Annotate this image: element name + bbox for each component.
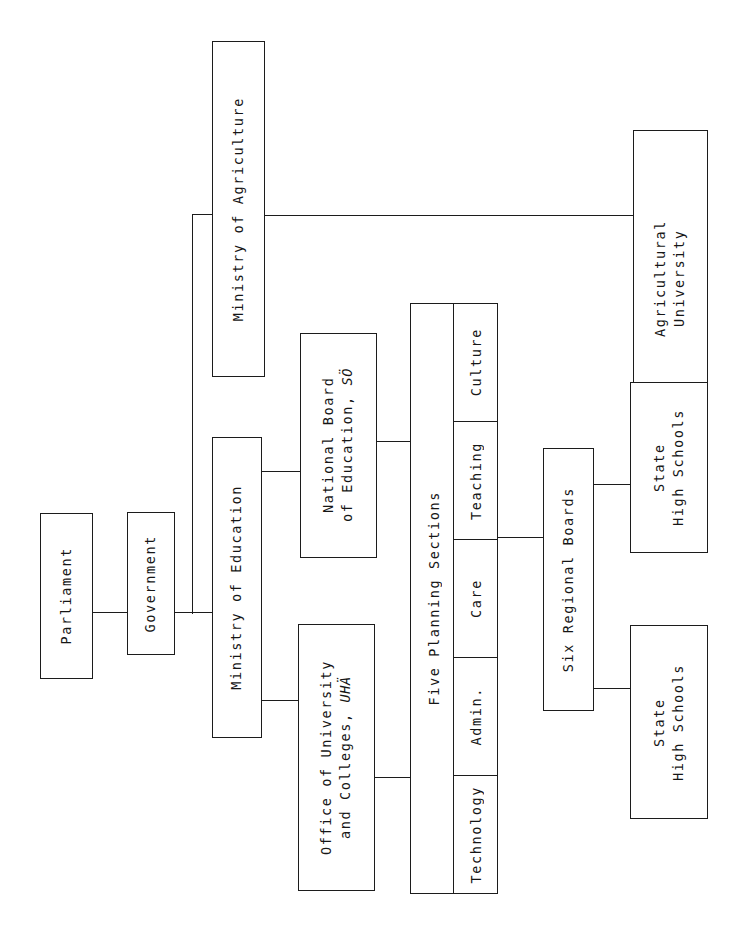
edge-education-national-board — [261, 471, 301, 472]
node-government-label: Government — [141, 535, 160, 632]
national-board-line1: National Board — [320, 377, 336, 513]
planning-section-care-label: Care — [468, 579, 484, 618]
planning-section-culture[interactable]: Culture — [454, 304, 497, 422]
edge-trunk-ministry-agriculture — [192, 214, 214, 215]
state-high-schools-upper-line1: State — [651, 443, 667, 492]
node-office-of-university-and-colleges[interactable]: Office of University and Colleges, UHÄ — [298, 624, 375, 891]
node-state-high-schools-lower-label: State High Schools — [650, 664, 688, 781]
state-high-schools-lower-line1: State — [651, 698, 667, 747]
office-university-line1: Office of University — [318, 660, 334, 855]
planning-section-culture-label: Culture — [468, 328, 484, 396]
node-ministry-of-education[interactable]: Ministry of Education — [212, 437, 262, 738]
office-university-line2: and Colleges, — [338, 702, 354, 838]
state-high-schools-upper-line2: High Schools — [670, 409, 686, 526]
node-six-regional-boards-label: Six Regional Boards — [559, 487, 578, 672]
node-agricultural-university-label: Agricultural University — [651, 220, 689, 337]
edge-agriculture-university — [264, 215, 634, 216]
node-office-of-university-and-colleges-label: Office of University and Colleges, UHÄ — [317, 660, 355, 855]
node-parliament-label: Parliament — [57, 547, 76, 644]
node-national-board-of-education-label: National Board of Education, SÖ — [319, 368, 357, 522]
node-state-high-schools-upper[interactable]: State High Schools — [630, 382, 708, 553]
planning-section-cells: Culture Teaching Care Admin. Technology — [453, 304, 497, 893]
planning-section-technology-label: Technology — [468, 786, 484, 883]
node-national-board-of-education[interactable]: National Board of Education, SÖ — [300, 333, 377, 558]
edge-government-trunk — [175, 612, 212, 613]
state-high-schools-lower-line2: High Schools — [670, 664, 686, 781]
org-chart-canvas: Parliament Government Ministry of Educat… — [0, 0, 756, 952]
planning-section-teaching-label: Teaching — [468, 442, 484, 520]
planning-section-admin-label: Admin. — [468, 687, 484, 746]
edge-national-board-planning — [376, 441, 411, 442]
agricultural-university-line1: Agricultural — [652, 220, 668, 337]
five-planning-sections-label: Five Planning Sections — [426, 491, 442, 705]
node-ministry-of-agriculture-label: Ministry of Agriculture — [229, 97, 248, 321]
planning-section-teaching[interactable]: Teaching — [454, 422, 497, 540]
edge-parliament-government — [93, 612, 127, 613]
national-board-abbr: SÖ — [340, 368, 356, 386]
planning-section-technology[interactable]: Technology — [454, 776, 497, 893]
edge-planning-regional-boards — [497, 537, 544, 538]
planning-section-admin[interactable]: Admin. — [454, 658, 497, 776]
edge-office-university-planning — [374, 777, 411, 778]
five-planning-sections-title: Five Planning Sections — [411, 304, 456, 893]
node-five-planning-sections[interactable]: Five Planning Sections Culture Teaching … — [410, 303, 498, 894]
node-parliament[interactable]: Parliament — [40, 513, 93, 679]
node-six-regional-boards[interactable]: Six Regional Boards — [543, 448, 594, 711]
planning-section-care[interactable]: Care — [454, 540, 497, 658]
edge-regional-boards-high-schools-upper — [593, 484, 631, 485]
national-board-line2: of Education, — [340, 386, 356, 522]
node-state-high-schools-lower[interactable]: State High Schools — [630, 625, 708, 819]
edge-education-office-university — [261, 700, 299, 701]
node-ministry-of-education-label: Ministry of Education — [227, 485, 246, 690]
node-state-high-schools-upper-label: State High Schools — [650, 409, 688, 526]
node-ministry-of-agriculture[interactable]: Ministry of Agriculture — [212, 41, 265, 377]
office-university-abbr: UHÄ — [338, 676, 354, 702]
edge-trunk-vertical — [192, 214, 193, 614]
edge-regional-boards-high-schools-lower — [593, 688, 631, 689]
agricultural-university-line2: University — [672, 229, 688, 326]
node-government[interactable]: Government — [127, 512, 175, 655]
